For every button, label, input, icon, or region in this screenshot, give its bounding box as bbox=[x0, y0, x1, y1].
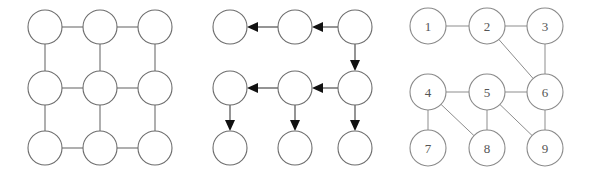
panel-directed-grid-graph bbox=[190, 0, 390, 174]
graph-node[interactable] bbox=[28, 131, 62, 165]
node-layer: 123456789 bbox=[410, 8, 563, 166]
arrow-head-icon bbox=[247, 22, 258, 32]
arrow-head-icon bbox=[312, 83, 323, 93]
graph-node[interactable] bbox=[213, 131, 247, 165]
node-layer bbox=[213, 10, 372, 165]
graph-node-label: 6 bbox=[542, 85, 549, 100]
graph-node[interactable] bbox=[338, 10, 372, 44]
graph-node[interactable] bbox=[278, 10, 312, 44]
arrow-head-icon bbox=[247, 83, 258, 93]
panel-undirected-grid-graph bbox=[0, 0, 190, 174]
graph-node[interactable] bbox=[28, 71, 62, 105]
graph-node-label: 4 bbox=[425, 85, 432, 100]
graph-node-label: 8 bbox=[484, 141, 491, 156]
graph-node[interactable] bbox=[138, 131, 172, 165]
graph-node-label: 3 bbox=[542, 19, 549, 34]
directed-grid-svg bbox=[190, 0, 390, 174]
graph-node[interactable] bbox=[28, 10, 62, 44]
graph-node[interactable] bbox=[278, 71, 312, 105]
graph-node[interactable] bbox=[338, 71, 372, 105]
graph-node-label: 9 bbox=[542, 141, 549, 156]
arrow-head-icon bbox=[350, 60, 360, 71]
graph-node-label: 2 bbox=[484, 19, 491, 34]
arrow-head-icon bbox=[225, 120, 235, 131]
panel-numbered-graph: 123456789 bbox=[390, 0, 589, 174]
graph-node[interactable] bbox=[138, 71, 172, 105]
numbered-graph-svg: 123456789 bbox=[390, 0, 589, 174]
arrow-head-icon bbox=[312, 22, 323, 32]
graph-node[interactable] bbox=[213, 71, 247, 105]
undirected-grid-svg bbox=[0, 0, 190, 174]
graph-node[interactable] bbox=[213, 10, 247, 44]
arrow-head-icon bbox=[350, 120, 360, 131]
graph-node-label: 1 bbox=[425, 19, 432, 34]
graph-node-label: 5 bbox=[484, 85, 491, 100]
graph-node[interactable] bbox=[278, 131, 312, 165]
graph-edge bbox=[441, 104, 474, 135]
graph-edge bbox=[499, 40, 533, 79]
graph-figure: 123456789 bbox=[0, 0, 589, 174]
graph-edge bbox=[500, 105, 532, 136]
graph-node[interactable] bbox=[83, 131, 117, 165]
graph-node[interactable] bbox=[83, 10, 117, 44]
graph-node[interactable] bbox=[83, 71, 117, 105]
node-layer bbox=[28, 10, 172, 165]
graph-node[interactable] bbox=[138, 10, 172, 44]
arrow-head-icon bbox=[290, 120, 300, 131]
graph-node[interactable] bbox=[338, 131, 372, 165]
graph-node-label: 7 bbox=[425, 141, 432, 156]
